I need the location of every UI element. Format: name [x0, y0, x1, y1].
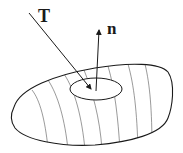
tangent-vector-label: T [38, 6, 50, 26]
surface-contour-lines [32, 64, 152, 150]
normal-vector-label: n [107, 19, 117, 38]
surface-diagram: T n [0, 0, 183, 153]
surface-outline [12, 64, 173, 145]
